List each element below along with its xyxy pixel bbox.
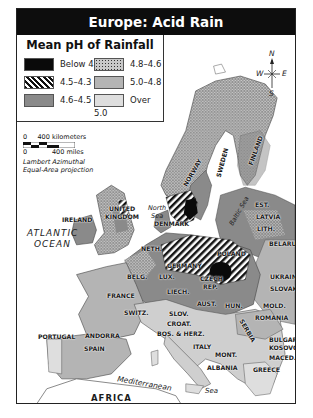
label-kosovo: KOSOVO: [269, 344, 296, 351]
label-est: EST.: [255, 201, 269, 208]
compass-icon: [263, 58, 281, 90]
legend-item-5-0-4-8: 5.0–4.8: [94, 76, 161, 89]
label-france: FRANCE: [107, 292, 135, 299]
label-neth: NETH.: [141, 245, 162, 252]
label-andorra: ANDORRA: [85, 332, 120, 339]
label-italy: ITALY: [193, 343, 211, 350]
label-slovakia: SLOVAKIA: [270, 285, 296, 292]
swatch-medium-gray: [94, 76, 124, 89]
map-frame: Europe: Acid Rain: [16, 8, 296, 404]
label-slov: SLOV.: [169, 310, 189, 317]
label-poland: POLAND: [217, 250, 246, 257]
projection-note: Lambert Azimuthal Equal-Area projection: [23, 158, 93, 174]
legend-item-over-5-0: Over 5.0: [94, 94, 163, 107]
label-aust: AUST.: [197, 300, 217, 307]
label-portugal: PORTUGAL: [38, 333, 75, 340]
legend-label: 5.0–4.8: [130, 77, 161, 87]
label-liech: LIECH.: [167, 288, 190, 295]
label-mont: MONT.: [215, 351, 237, 358]
compass-n: N: [269, 49, 275, 58]
label-croat: CROAT.: [167, 320, 191, 327]
label-czech-2: REP.: [203, 283, 218, 290]
label-belarus: BELARUS: [269, 240, 296, 247]
label-north-sea-2: Sea: [151, 212, 163, 220]
label-spain: SPAIN: [84, 345, 105, 352]
label-mold: MOLD.: [263, 302, 286, 309]
legend: Mean pH of Rainfall Below 4.3 4.5–4.3 4.…: [17, 35, 164, 122]
label-bos-herz: BOS. & HERZ.: [157, 330, 205, 337]
label-atlantic: ATLANTIC: [27, 228, 78, 238]
legend-item-4-6-4-5: 4.6–4.5: [24, 94, 91, 107]
label-ukraine: UKRAINE: [270, 273, 296, 280]
map-title: Europe: Acid Rain: [17, 9, 295, 35]
legend-label: 4.5–4.3: [60, 77, 91, 87]
label-hun: HUN.: [225, 302, 243, 309]
label-belg: BELG.: [127, 273, 147, 280]
label-latvia: LATVIA: [256, 213, 280, 220]
label-ireland: IRELAND: [62, 216, 92, 223]
label-germany: GERMANY: [167, 262, 202, 269]
label-lux: LUX.: [159, 273, 175, 280]
scale-bar: 0 400 kilometers 0 400 miles Lambert Azi…: [23, 133, 93, 174]
swatch-diagonal-stripes: [24, 76, 54, 89]
label-uk-2: KINGDOM: [105, 213, 139, 220]
swatch-light-gray: [94, 94, 124, 107]
swatch-dotted: [94, 58, 124, 71]
label-uk-1: UNITED: [109, 205, 135, 212]
label-lith: LITH.: [257, 225, 275, 232]
legend-item-4-8-4-6: 4.8–4.6: [94, 58, 161, 71]
compass-rose: N W E S: [255, 49, 285, 99]
label-ocean: OCEAN: [34, 239, 71, 249]
swatch-dark-gray: [24, 94, 54, 107]
scale-graphic: [23, 142, 75, 147]
legend-label: 4.6–4.5: [60, 95, 91, 105]
compass-s: S: [269, 89, 274, 98]
legend-title: Mean pH of Rainfall: [17, 38, 163, 52]
legend-item-4-5-4-3: 4.5–4.3: [24, 76, 91, 89]
label-albania: ALBANIA: [207, 364, 238, 371]
legend-item-below-4-3: Below 4.3: [24, 58, 102, 71]
compass-e: E: [282, 69, 287, 78]
label-czech-1: CZECH: [200, 275, 223, 282]
swatch-solid-black: [24, 58, 54, 71]
label-sea: Sea: [205, 387, 218, 395]
label-north-sea-1: North: [148, 204, 166, 212]
label-romania: ROMANIA: [255, 314, 288, 321]
label-bulgaria: BULGARIA: [269, 336, 296, 343]
label-africa: AFRICA: [91, 393, 132, 403]
label-denmark: DENMARK: [154, 220, 189, 227]
label-switz: SWITZ.: [124, 309, 149, 316]
label-greece: GREECE: [253, 366, 280, 373]
scale-km-label: 0 400 kilometers: [23, 133, 93, 141]
scale-mi-label: 0 400 miles: [23, 148, 93, 156]
legend-label: 4.8–4.6: [130, 59, 161, 69]
label-maced: MACED.: [269, 354, 296, 361]
